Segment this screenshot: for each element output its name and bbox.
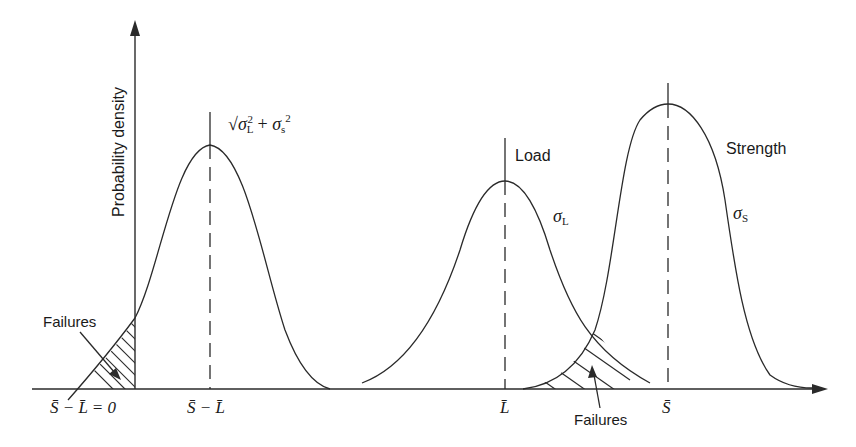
x-axis (32, 384, 828, 394)
strength-label: Strength (726, 140, 786, 157)
strength-distribution (485, 83, 812, 410)
failures-hatch-right (485, 260, 705, 410)
y-axis-label: Probability density (110, 87, 127, 217)
load-sd-label: σL (553, 206, 569, 227)
load-label: Load (515, 147, 551, 164)
load-distribution (362, 138, 650, 389)
x-axis-arrow-icon (812, 384, 828, 394)
margin-distribution (60, 112, 330, 436)
failures-label-left: Failures (43, 313, 96, 330)
x-tick-load-mean: L̄ (499, 398, 509, 417)
y-axis-arrow-icon (130, 20, 140, 36)
margin-sd-label: √σL2 + σs2 (228, 112, 291, 135)
x-tick-margin-zero: S̄ − L̄ = 0 (50, 398, 117, 417)
x-tick-strength-mean: S̄ (662, 398, 671, 417)
strength-sd-label: σS (733, 203, 748, 224)
y-axis (130, 20, 140, 389)
interference-diagram: Probability density (0, 0, 856, 447)
x-tick-margin-mean: S̄ − L̄ (187, 398, 225, 417)
failures-label-right: Failures (574, 411, 627, 428)
